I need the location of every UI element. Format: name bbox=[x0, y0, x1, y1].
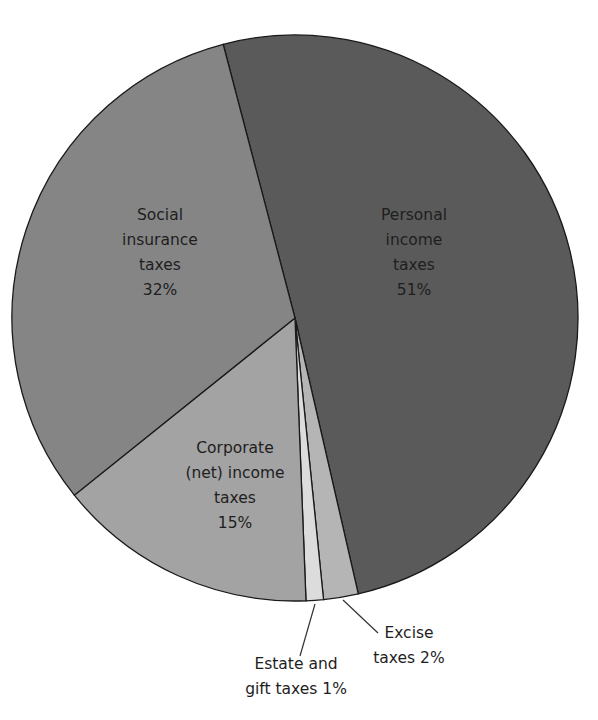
label-social-insurance: Social insurance taxes 32% bbox=[100, 203, 220, 303]
label-line: taxes bbox=[356, 253, 472, 278]
pie-chart bbox=[0, 0, 598, 720]
label-value: taxes 2% bbox=[362, 646, 456, 671]
label-line: Corporate bbox=[165, 436, 305, 461]
label-line: Social bbox=[100, 203, 220, 228]
label-line: insurance bbox=[100, 228, 220, 253]
label-line: Personal bbox=[356, 203, 472, 228]
label-line: (net) income bbox=[165, 461, 305, 486]
label-estate-gift: Estate and gift taxes 1% bbox=[236, 652, 356, 702]
estate-leader-line bbox=[300, 604, 315, 656]
label-line: Estate and bbox=[236, 652, 356, 677]
label-line: taxes bbox=[165, 486, 305, 511]
label-line: taxes bbox=[100, 253, 220, 278]
label-personal-income: Personal income taxes 51% bbox=[356, 203, 472, 303]
label-line: Excise bbox=[362, 621, 456, 646]
label-line: income bbox=[356, 228, 472, 253]
label-excise: Excise taxes 2% bbox=[362, 621, 456, 671]
label-corporate-income: Corporate (net) income taxes 15% bbox=[165, 436, 305, 536]
label-value: 32% bbox=[100, 278, 220, 303]
label-value: 51% bbox=[356, 278, 472, 303]
label-value: 15% bbox=[165, 511, 305, 536]
label-value: gift taxes 1% bbox=[236, 677, 356, 702]
